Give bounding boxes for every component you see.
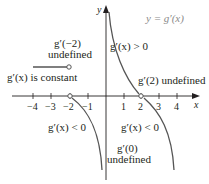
neg-right-label: g′(x) < 0 xyxy=(121,121,159,134)
open-circle-2 xyxy=(139,94,143,98)
positive-label: g′(x) > 0 xyxy=(110,40,148,53)
tick-label: −1 xyxy=(82,101,93,112)
g0-undefined: undefined xyxy=(107,153,151,165)
tick-label: 3 xyxy=(156,101,161,112)
tick-label: −3 xyxy=(45,101,56,112)
tick-label: 4 xyxy=(174,101,179,112)
tick-label: 2 xyxy=(138,101,143,112)
open-circle-constant-end xyxy=(67,65,71,69)
x-axis-label: x xyxy=(193,99,199,110)
curve-positive xyxy=(109,12,139,94)
legend-equation: y = g′(x) xyxy=(145,12,184,25)
tick-label: 1 xyxy=(121,101,126,112)
constant-label: g′(x) is constant xyxy=(7,71,77,84)
g-neg2-undefined: undefined xyxy=(48,48,92,60)
g2-undefined-label: g′(2) undefined xyxy=(138,74,206,87)
tick-label: −2 xyxy=(63,101,74,112)
y-axis-label: y xyxy=(96,4,102,15)
graph-canvas: −4 −3 −2 −1 1 2 3 4 x y y = g′(x) g′(−2)… xyxy=(0,0,209,184)
tick-label: −4 xyxy=(27,101,38,112)
neg-left-label: g′(x) < 0 xyxy=(48,121,86,134)
open-circle-neg2 xyxy=(68,94,72,98)
y-axis-arrow-icon xyxy=(103,5,109,13)
